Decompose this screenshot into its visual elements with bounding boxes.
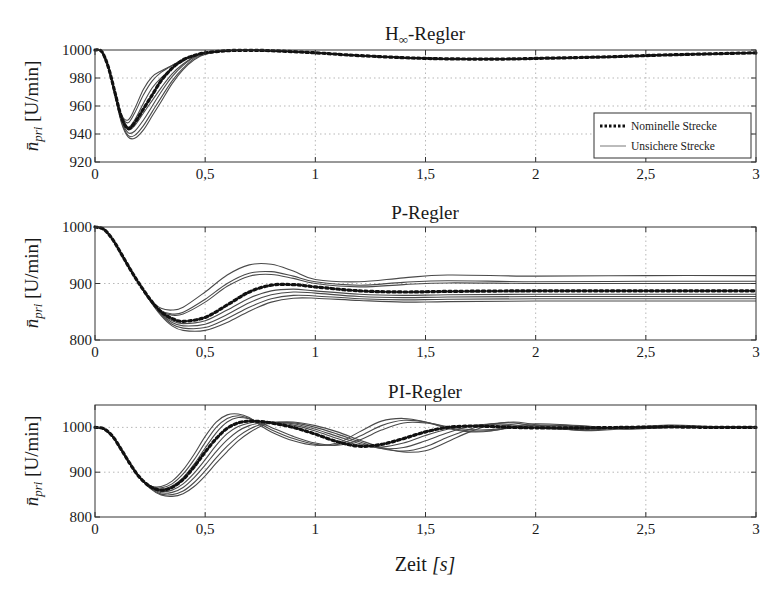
x-tick-label: 2 [532, 521, 540, 537]
y-tick-label: 920 [70, 154, 93, 170]
x-tick-label: 2 [532, 344, 540, 360]
x-tick-label: 3 [752, 344, 760, 360]
x-tick-label: 1,5 [416, 521, 435, 537]
x-tick-label: 0,5 [196, 166, 215, 182]
x-tick-label: 1 [312, 521, 320, 537]
x-tick-label: 1 [312, 166, 320, 182]
subplot-title: H∞-Regler [385, 23, 466, 47]
x-axis-label: Zeit [s] [395, 553, 456, 575]
x-tick-label: 0 [91, 344, 99, 360]
x-tick-label: 0 [91, 521, 99, 537]
ylabel: n̄pri [U/min] [21, 61, 45, 152]
x-tick-label: 3 [752, 521, 760, 537]
figure-canvas: H∞-Regler 00,511,522,539209409609801000 … [0, 0, 783, 602]
subplot-pi-regler: PI-Regler 00,511,522,538009001000 n̄pri … [21, 381, 760, 537]
axis-ticks: 00,511,522,539209409609801000 [62, 42, 760, 182]
y-tick-label: 900 [70, 464, 93, 480]
svg-text:n̄pri [U/min]: n̄pri [U/min] [21, 238, 45, 329]
ylabel: n̄pri [U/min] [21, 238, 45, 329]
x-tick-label: 2,5 [636, 344, 655, 360]
x-tick-label: 2,5 [636, 166, 655, 182]
figure: H∞-Regler 00,511,522,539209409609801000 … [0, 0, 783, 602]
x-tick-label: 1,5 [416, 166, 435, 182]
svg-text:n̄pri [U/min]: n̄pri [U/min] [21, 416, 45, 507]
data-series [95, 227, 756, 331]
subplot-hinf-regler: H∞-Regler 00,511,522,539209409609801000 … [21, 23, 760, 182]
x-tick-label: 0,5 [196, 344, 215, 360]
legend-nominal-label: Nominelle Strecke [631, 120, 717, 132]
y-tick-label: 1000 [62, 42, 92, 58]
x-tick-label: 1,5 [416, 344, 435, 360]
y-tick-label: 940 [70, 126, 93, 142]
y-tick-label: 980 [70, 70, 93, 86]
y-tick-label: 800 [70, 509, 93, 525]
subplot-title: P-Regler [391, 202, 459, 223]
svg-text:n̄pri [U/min]: n̄pri [U/min] [21, 61, 45, 152]
x-tick-label: 2,5 [636, 521, 655, 537]
legend: Nominelle Strecke Unsichere Strecke [594, 113, 751, 158]
x-tick-label: 0,5 [196, 521, 215, 537]
subplot-title: PI-Regler [388, 381, 463, 402]
y-tick-label: 1000 [62, 219, 92, 235]
legend-uncertain-label: Unsichere Strecke [631, 140, 715, 152]
x-tick-label: 0 [91, 166, 99, 182]
ylabel: n̄pri [U/min] [21, 416, 45, 507]
x-tick-label: 1 [312, 344, 320, 360]
subplot-p-regler: P-Regler 00,511,522,538009001000 n̄pri [… [21, 202, 760, 360]
x-tick-label: 2 [532, 166, 540, 182]
y-tick-label: 1000 [62, 419, 92, 435]
y-tick-label: 960 [70, 98, 93, 114]
series-uncertain [95, 227, 756, 331]
x-tick-label: 3 [752, 166, 760, 182]
y-tick-label: 900 [70, 276, 93, 292]
y-tick-label: 800 [70, 332, 93, 348]
